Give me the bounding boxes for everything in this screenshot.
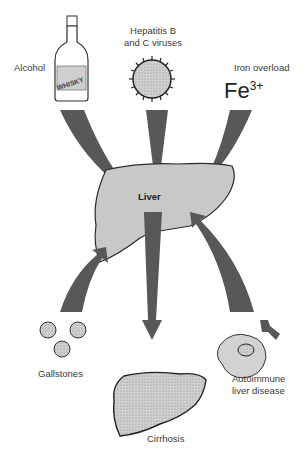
cirrhotic-liver-icon — [114, 372, 206, 436]
label-gallstones: Gallstones — [38, 368, 83, 380]
label-hepatitis-line2: and C viruses — [118, 37, 188, 49]
virus-icon — [129, 56, 175, 102]
label-iron-overload: Iron overload — [234, 62, 289, 74]
label-autoimmune-line1: Autoimmune — [232, 373, 285, 385]
cell-antibody-icon — [217, 320, 280, 378]
label-cirrhosis: Cirrhosis — [147, 433, 184, 445]
arrow-autoimmune-to-liver — [190, 212, 254, 312]
formula-base: Fe — [224, 78, 250, 103]
formula-superscript: 3+ — [250, 79, 264, 93]
label-alcohol: Alcohol — [14, 62, 45, 74]
whisky-bottle-icon: WHISKY — [55, 16, 88, 101]
arrow-gallstones-to-liver — [60, 247, 108, 312]
liver-disease-diagram: WHISKY — [0, 0, 307, 455]
label-hepatitis-line1: Hepatitis B — [118, 25, 188, 37]
label-autoimmune-line2: liver disease — [232, 385, 285, 397]
arrow-liver-to-cirrhosis — [142, 212, 162, 340]
gallstones-icon — [40, 322, 86, 357]
label-liver: Liver — [138, 191, 161, 203]
iron-formula: Fe3+ — [224, 74, 263, 103]
